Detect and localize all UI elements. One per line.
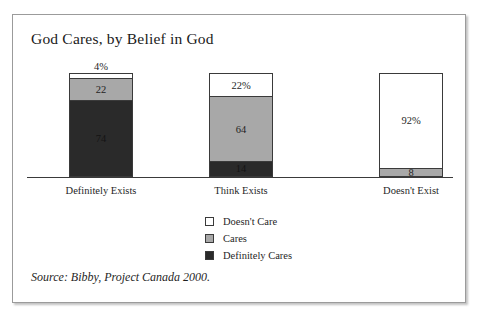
segment-definitely-cares-2: 14 — [210, 162, 272, 176]
chart-legend: Doesn't Care Cares Definitely Cares — [205, 214, 292, 265]
category-label-doesnt-exist: Doesn't Exist — [336, 185, 480, 196]
legend-label-cares: Cares — [223, 233, 247, 244]
bar-1-above-label: 4% — [69, 61, 133, 72]
legend-swatch-cares — [205, 234, 214, 243]
legend-label-doesnt-care: Doesn't Care — [223, 216, 277, 227]
bar-group-think-exists: 22% 64 14 Think Exists — [209, 15, 273, 177]
legend-label-definitely-cares: Definitely Cares — [223, 250, 292, 261]
segment-cares-2: 64 — [210, 96, 272, 161]
bar-group-doesnt-exist: 92% 8 Doesn't Exist — [379, 15, 443, 177]
segment-cares-3: 8 — [380, 168, 442, 176]
stacked-bar-definitely-exists[interactable]: 22 74 — [69, 73, 133, 177]
segment-doesnt-care-2: 22% — [210, 74, 272, 96]
source-note: Source: Bibby, Project Canada 2000. — [31, 270, 210, 285]
legend-item-doesnt-care[interactable]: Doesn't Care — [205, 214, 292, 229]
legend-swatch-definitely-cares — [205, 251, 214, 260]
legend-item-definitely-cares[interactable]: Definitely Cares — [205, 248, 292, 263]
segment-definitely-cares-1: 74 — [70, 101, 132, 176]
x-axis-baseline — [27, 177, 453, 178]
chart-figure: God Cares, by Belief in God 4% 22 74 Def… — [12, 14, 466, 303]
stacked-bar-think-exists[interactable]: 22% 64 14 — [209, 73, 273, 177]
segment-doesnt-care-3: 92% — [380, 74, 442, 168]
category-label-definitely-exists: Definitely Exists — [26, 185, 176, 196]
segment-cares-1: 22 — [70, 78, 132, 100]
legend-item-cares[interactable]: Cares — [205, 231, 292, 246]
stacked-bar-doesnt-exist[interactable]: 92% 8 — [379, 73, 443, 177]
bar-group-definitely-exists: 4% 22 74 Definitely Exists — [69, 15, 133, 177]
legend-swatch-doesnt-care — [205, 217, 214, 226]
category-label-think-exists: Think Exists — [166, 185, 316, 196]
